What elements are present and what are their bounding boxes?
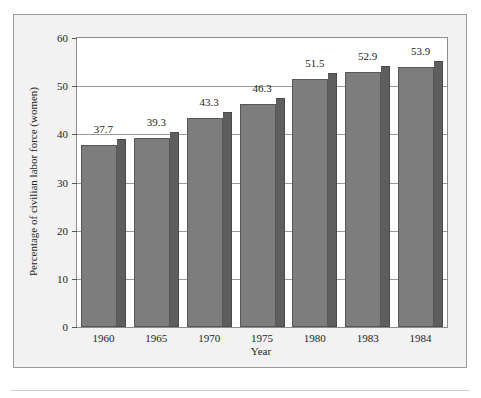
bar-front-face — [345, 72, 381, 327]
x-axis-tick-label: 1984 — [398, 332, 443, 344]
bar-front-face — [81, 145, 117, 327]
bar — [398, 61, 443, 327]
y-axis-tick-label: 30 — [57, 177, 68, 189]
y-axis-tick-label: 60 — [57, 32, 68, 44]
y-axis-tick — [72, 231, 77, 232]
y-axis-tick-label: 20 — [57, 225, 68, 237]
y-axis-tick — [72, 279, 77, 280]
bar-side-face — [328, 73, 337, 327]
y-axis-title: Percentage of civilian labor force (wome… — [27, 37, 43, 326]
x-axis-tick-label: 1965 — [134, 332, 179, 344]
bar-side-face — [434, 61, 443, 327]
y-axis-tick — [72, 327, 77, 328]
bar-value-label: 53.9 — [398, 45, 443, 57]
bar — [187, 112, 232, 327]
bar-value-label: 43.3 — [187, 96, 232, 108]
bar-value-label: 46.3 — [240, 82, 285, 94]
figure: Percentage of civilian labor force (wome… — [0, 0, 481, 398]
y-axis-tick — [72, 38, 77, 39]
bar-value-label: 51.5 — [292, 57, 337, 69]
bar-front-face — [292, 79, 328, 327]
bar — [134, 132, 179, 327]
bar-side-face — [276, 98, 285, 327]
x-axis-tick-label: 1983 — [345, 332, 390, 344]
x-axis-tick-label: 1980 — [292, 332, 337, 344]
bar-side-face — [381, 66, 390, 327]
bar-value-label: 52.9 — [345, 50, 390, 62]
x-axis-tick-label: 1975 — [240, 332, 285, 344]
bar — [345, 66, 390, 327]
x-axis-tick-label: 1960 — [81, 332, 126, 344]
y-axis-tick — [72, 134, 77, 135]
x-axis-tick-label: 1970 — [187, 332, 232, 344]
bar-side-face — [223, 112, 232, 327]
y-axis-tick — [72, 86, 77, 87]
y-axis-tick-label: 0 — [63, 321, 69, 333]
bar — [81, 139, 126, 327]
x-axis-title: Year — [76, 345, 446, 357]
y-axis-tick-label: 50 — [57, 80, 68, 92]
bar-side-face — [117, 139, 126, 327]
bar — [292, 73, 337, 327]
bar-value-label: 37.7 — [81, 123, 126, 135]
bar-front-face — [134, 138, 170, 327]
bar-front-face — [187, 118, 223, 327]
y-axis-tick — [72, 183, 77, 184]
bottom-divider — [11, 390, 470, 391]
bar-front-face — [240, 104, 276, 327]
bar — [240, 98, 285, 327]
bar-front-face — [398, 67, 434, 327]
plot-area: 0102030405060 37.739.343.346.351.552.953… — [76, 37, 448, 328]
bar-side-face — [170, 132, 179, 327]
y-axis-tick-label: 40 — [57, 128, 68, 140]
bar-value-label: 39.3 — [134, 116, 179, 128]
y-axis-tick-label: 10 — [57, 273, 68, 285]
